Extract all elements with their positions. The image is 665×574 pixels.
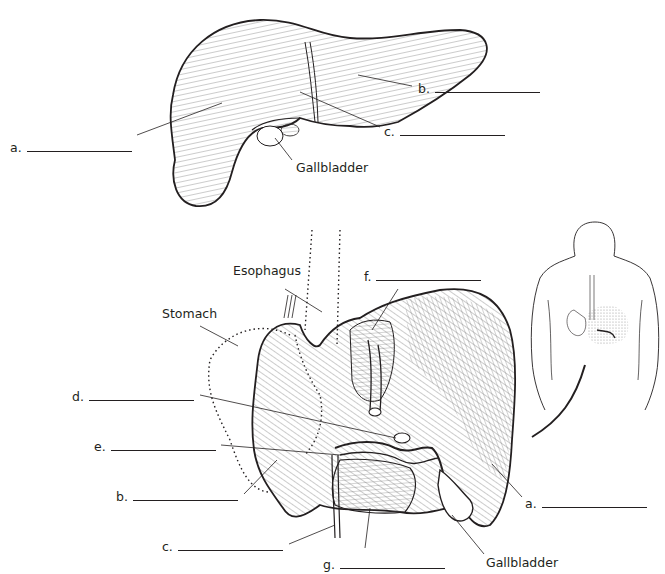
bottom-label-b-answer-blank[interactable] <box>133 490 238 501</box>
bottom-label-d-letter: d. <box>72 389 84 404</box>
top-label-gallbladder: Gallbladder <box>296 161 368 175</box>
top-label-b-letter: b. <box>418 81 430 96</box>
bottom-label-c-letter: c. <box>162 539 173 554</box>
top-label-a-letter: a. <box>10 140 22 155</box>
bottom-label-gallbladder: Gallbladder <box>486 556 558 570</box>
body-inset-illustration <box>531 222 658 410</box>
bottom-label-a: a. <box>525 497 647 511</box>
bottom-label-a-letter: a. <box>525 496 537 511</box>
bottom-label-f-letter: f. <box>364 269 371 284</box>
top-label-c-letter: c. <box>384 124 395 139</box>
bottom-label-f-answer-blank[interactable] <box>376 270 481 281</box>
bottom-label-d: d. <box>72 390 194 404</box>
liver-diagram: a. b. c. Gallbladder Esophagus Stomach f… <box>0 0 665 574</box>
bottom-label-e-letter: e. <box>94 439 106 454</box>
bottom-label-stomach: Stomach <box>162 307 217 321</box>
bottom-label-esophagus: Esophagus <box>233 264 301 278</box>
bottom-label-b: b. <box>116 490 238 504</box>
top-label-a: a. <box>10 141 132 155</box>
bottom-label-b-letter: b. <box>116 489 128 504</box>
top-label-b-answer-blank[interactable] <box>435 82 540 93</box>
top-label-b: b. <box>418 82 540 96</box>
top-liver-illustration <box>137 20 487 206</box>
top-label-a-answer-blank[interactable] <box>27 141 132 152</box>
bottom-label-g-letter: g. <box>323 557 335 572</box>
bottom-label-d-answer-blank[interactable] <box>89 390 194 401</box>
top-label-c-answer-blank[interactable] <box>400 125 505 136</box>
bottom-label-a-answer-blank[interactable] <box>542 497 647 508</box>
bottom-label-f: f. <box>364 270 481 284</box>
bottom-label-e-answer-blank[interactable] <box>111 440 216 451</box>
bottom-label-e: e. <box>94 440 216 454</box>
diagram-artwork <box>0 0 665 574</box>
bottom-label-g: g. <box>323 558 445 572</box>
bottom-label-c-answer-blank[interactable] <box>178 540 283 551</box>
bottom-label-g-answer-blank[interactable] <box>340 558 445 569</box>
top-label-c: c. <box>384 125 505 139</box>
bottom-label-c: c. <box>162 540 283 554</box>
